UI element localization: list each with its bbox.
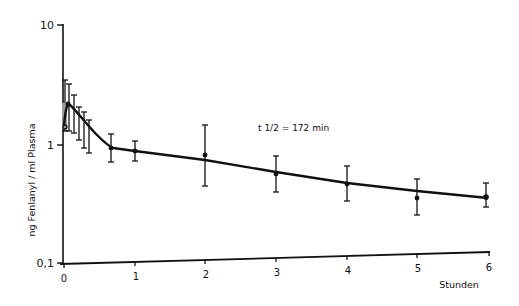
fentanyl-plasma-chart: 10 1 0,1 ng Fenlanyl / ml Plasma 0 1 2 3… [0,0,519,306]
error-bars [62,80,489,215]
x-tick-label-1: 1 [133,271,139,282]
x-axis-label: Stunden [439,279,479,290]
y-axis-label: ng Fenlanyl / ml Plasma [26,124,37,237]
y-tick-label-1: 1 [47,139,54,152]
half-life-annotation: t 1/2 = 172 min [258,123,329,133]
x-tick-label-4: 4 [345,265,351,276]
x-tick-label-6: 6 [486,262,492,273]
x-tick-label-5: 5 [415,263,421,274]
x-axis [60,252,490,264]
y-tick-label-10: 10 [40,19,54,32]
x-tick-label-2: 2 [203,269,209,280]
x-tick-label-0: 0 [61,273,67,284]
y-tick-label-0-1: 0,1 [37,257,55,270]
x-tick-label-3: 3 [274,267,280,278]
